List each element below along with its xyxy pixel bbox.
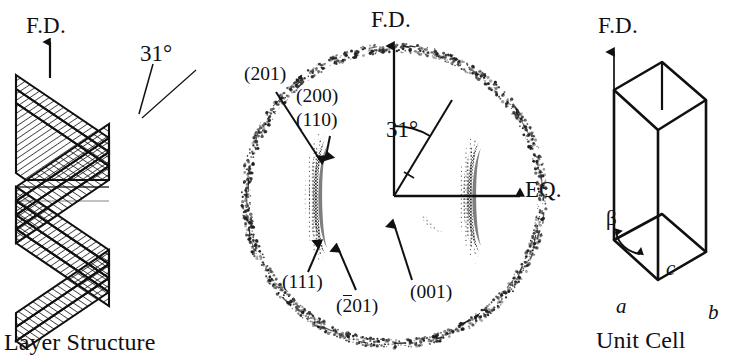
panel-diffraction-pattern: F.D. EQ. 31° (201) (200) (110) (111) (20… bbox=[228, 0, 558, 362]
reflection-200-110-arrow bbox=[326, 136, 330, 156]
diffraction-arc-left bbox=[305, 128, 327, 266]
panel-layer-structure: F.D. 31° Layer Structure bbox=[0, 0, 236, 362]
reflection-2bar01-arrow bbox=[338, 248, 356, 290]
layer-angle-leader-2 bbox=[142, 70, 196, 118]
reflection-001-arrow bbox=[394, 224, 412, 280]
unitcell-beta-arc bbox=[616, 232, 640, 254]
unit-cell-drawing bbox=[556, 0, 756, 362]
layer-structure-drawing bbox=[0, 0, 236, 362]
layer-angle-leader-1 bbox=[139, 64, 153, 114]
diffraction-angle-arc bbox=[394, 126, 430, 136]
unit-cell-box bbox=[614, 62, 706, 280]
panel-unit-cell: F.D. Unit Cell β a b c bbox=[556, 0, 756, 362]
reflection-201-arrow bbox=[276, 92, 320, 160]
diffraction-drawing bbox=[228, 0, 558, 362]
diffraction-angle-ray bbox=[394, 100, 452, 196]
diffraction-spot-001 bbox=[422, 214, 442, 232]
